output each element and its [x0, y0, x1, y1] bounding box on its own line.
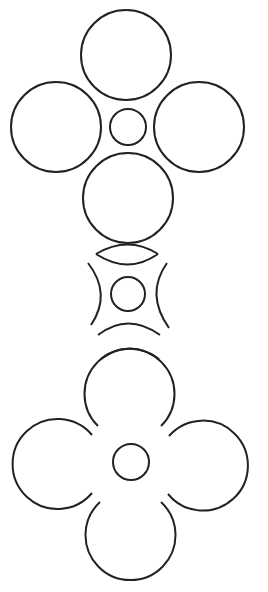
right-circle [154, 82, 244, 172]
left-arc [88, 263, 101, 325]
top-circle [81, 10, 171, 100]
top-arc [96, 254, 158, 265]
top-arc-outer [96, 245, 158, 255]
diagram-canvas [0, 0, 268, 592]
figure-four-circles [11, 10, 244, 243]
figure-flower [13, 349, 248, 580]
figure-concave-arcs [88, 245, 169, 360]
left-circle [11, 82, 101, 172]
bottom-petal [86, 502, 176, 580]
bottom-circle [83, 153, 173, 243]
right-petal [168, 421, 248, 511]
center-circle [113, 444, 149, 480]
right-arc [156, 263, 169, 328]
top-petal [85, 349, 175, 426]
left-petal [13, 419, 92, 509]
center-circle [110, 109, 146, 145]
center-circle [111, 277, 145, 311]
bottom-arc [98, 324, 160, 336]
